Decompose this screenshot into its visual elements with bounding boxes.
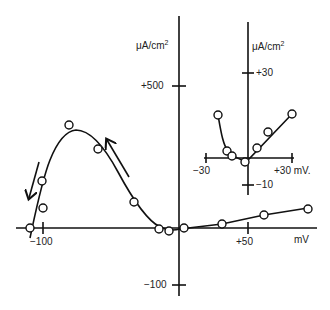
main-y-tick-minus100: −100 bbox=[144, 280, 167, 290]
inset-x-tick-30: +30 mV. bbox=[274, 166, 311, 176]
inset-y-tick-30: +30 bbox=[256, 68, 273, 78]
inset-x-tick-minus30: −30 bbox=[193, 166, 210, 176]
main-x-tick-50: +50 bbox=[236, 237, 253, 247]
inset-y-unit-label: μA/cm2 bbox=[252, 40, 284, 52]
main-x-unit-label: mV bbox=[294, 235, 309, 245]
main-y-unit-label: μA/cm2 bbox=[136, 39, 168, 51]
main-y-tick-500: +500 bbox=[141, 81, 164, 91]
main-x-tick-minus100: −100 bbox=[30, 237, 53, 247]
inset-y-tick-minus10: −10 bbox=[256, 180, 273, 190]
